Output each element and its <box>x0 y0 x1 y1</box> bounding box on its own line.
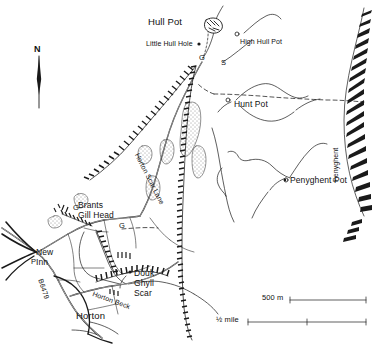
pot-markers-solid <box>128 42 286 273</box>
marker-g-hull-pot: G <box>199 54 205 63</box>
scale-bar-metric-label: 500 m <box>262 294 283 303</box>
hull-pot-symbol <box>204 18 222 33</box>
map-linework <box>0 0 373 346</box>
escarpment-small-patch <box>110 289 118 296</box>
label-high-hull-pot: High Hull Pot <box>240 38 282 46</box>
label-horton: Horton <box>76 311 105 322</box>
escarpment-gill <box>96 230 114 272</box>
field-boundaries <box>58 218 194 314</box>
north-arrow-shaft <box>37 56 41 108</box>
marker-g-brants-1: G <box>73 204 79 213</box>
road-minor-inner <box>38 62 202 296</box>
stipple-areas <box>48 102 206 228</box>
penyghent-ridge-lower <box>343 219 362 242</box>
label-hull-pot: Hull Pot <box>148 17 182 28</box>
escarpment-horton-beck <box>118 252 130 259</box>
label-little-hull-hole: Little Hull Hole <box>146 40 193 48</box>
label-brants-gill-head: Brants Gill Head <box>78 201 114 221</box>
label-douk-ghyll-scar: Douk Ghyll Scar <box>134 269 154 298</box>
marker-p-new-inn: P <box>31 258 36 267</box>
label-new-inn: New Inn <box>36 248 53 268</box>
label-hunt-pot: Hunt Pot <box>234 100 268 110</box>
marker-g-brants-2: G <box>119 222 125 231</box>
scale-bar-imperial-label: ½ mile <box>216 316 239 325</box>
map-canvas: N Hull Pot High Hull Pot Little Hull Hol… <box>0 0 373 346</box>
escarpment-lane-ticks <box>54 204 60 212</box>
label-penyghent-ridge: Penyghent <box>332 148 340 182</box>
escarpment-ne-lane <box>62 205 68 212</box>
marker-s-hull-pot: S <box>221 59 226 68</box>
north-arrow-label: N <box>34 44 41 54</box>
penyghent-ridge-hachures <box>346 10 372 212</box>
